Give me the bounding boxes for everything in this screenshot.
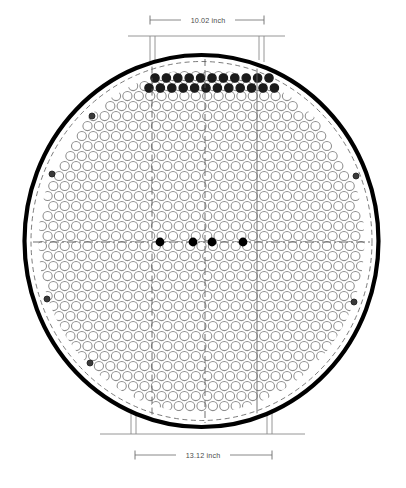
darkened-tube [236, 84, 244, 92]
darkened-tube [162, 74, 170, 82]
darkened-tube [219, 74, 227, 82]
top-dimension: 10.02 inch [150, 14, 264, 26]
edge-reference-marker [351, 299, 357, 305]
darkened-tube [196, 74, 204, 82]
darkened-tube [179, 84, 187, 92]
darkened-tube [190, 84, 198, 92]
darkened-tube [156, 84, 164, 92]
centerline-marker-dot [189, 238, 198, 247]
edge-reference-marker [49, 171, 55, 177]
darkened-tube [225, 84, 233, 92]
darkened-tube [231, 74, 239, 82]
darkened-tube [208, 74, 216, 82]
centerline-marker-dot [156, 238, 165, 247]
top-dimension-label: 10.02 inch [191, 16, 226, 25]
darkened-tube [174, 74, 182, 82]
darkened-tube [270, 84, 278, 92]
darkened-tube [168, 84, 176, 92]
edge-reference-marker [89, 113, 95, 119]
centerline-marker-dot [208, 238, 217, 247]
darkened-tube [253, 74, 261, 82]
darkened-tube [242, 74, 250, 82]
darkened-tube [202, 84, 210, 92]
bottom-dimension: 13.12 inch [135, 449, 272, 461]
darkened-tube [185, 74, 193, 82]
centerline-marker-dot [239, 238, 248, 247]
bottom-dimension-label: 13.12 inch [186, 451, 221, 460]
tube-sheet-drawing: 10.02 inch [0, 0, 406, 488]
darkened-tube [247, 84, 255, 92]
edge-reference-marker [87, 360, 93, 366]
darkened-tube [265, 74, 273, 82]
drawing-canvas: 10.02 inch [0, 0, 406, 488]
darkened-tube [259, 84, 267, 92]
darkened-tube [213, 84, 221, 92]
edge-reference-marker [44, 296, 50, 302]
edge-reference-marker [353, 173, 359, 179]
